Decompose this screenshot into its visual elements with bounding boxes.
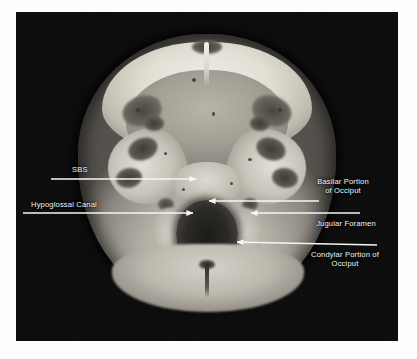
annotation-layer: SBS Hypoglossal Canal Basilar Portion of… [0, 0, 417, 359]
label-condylar-portion-of-occiput: Condylar Portion of Occiput [290, 250, 400, 269]
label-hypoglossal-canal: Hypoglossal Canal [31, 200, 97, 209]
leader-line-condylar-portion [237, 242, 377, 245]
label-sbs: SBS [72, 165, 88, 174]
figure-page: SBS Hypoglossal Canal Basilar Portion of… [0, 0, 417, 359]
label-basilar-portion-of-occiput: Basilar Portion of Occiput [310, 177, 376, 196]
label-jugular-foramen: Jugular Foramen [310, 219, 382, 228]
